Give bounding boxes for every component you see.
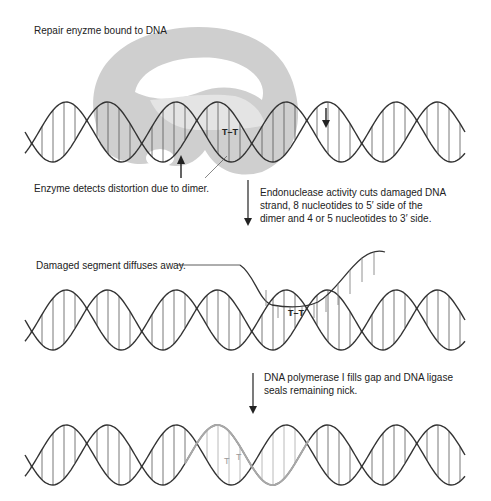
label-enzyme-detects: Enzyme detects distortion due to dimer. bbox=[34, 182, 209, 195]
label-polymerase: DNA polymerase I fills gap and DNA ligas… bbox=[264, 371, 454, 397]
helix-middle bbox=[25, 290, 465, 350]
label-endonuclease: Endonuclease activity cuts damaged DNA s… bbox=[260, 186, 450, 225]
arrow-step-2 bbox=[249, 373, 257, 414]
dimer-label-middle: T–T bbox=[288, 308, 304, 318]
arrow-step-1 bbox=[244, 180, 252, 226]
dimer-label-bottom-a: T bbox=[224, 456, 230, 466]
label-enzyme-bound: Repair enyzme bound to DNA bbox=[34, 24, 167, 37]
dna-repair-diagram bbox=[0, 0, 491, 501]
dimer-label-top: T–T bbox=[222, 127, 238, 137]
dimer-label-bottom-b: T bbox=[236, 452, 242, 462]
label-segment-away: Damaged segment diffuses away. bbox=[36, 259, 186, 272]
repair-enzyme-shape bbox=[93, 27, 298, 174]
helix-bottom bbox=[25, 425, 465, 485]
damaged-segment bbox=[177, 251, 385, 318]
arrow-cut-site bbox=[322, 108, 330, 128]
